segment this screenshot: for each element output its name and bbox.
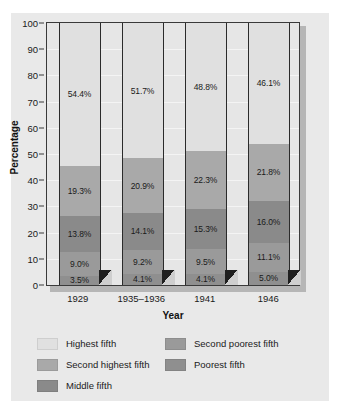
y-tick-label: 30 (27, 201, 38, 212)
y-tick-mark (39, 285, 44, 286)
legend-swatch-icon (165, 338, 186, 350)
bar-segment[interactable]: 9.5% (186, 249, 226, 274)
bar-segment[interactable]: 15.3% (186, 209, 226, 249)
legend-item[interactable]: Highest fifth (37, 338, 165, 350)
y-axis: Percentage 0102030405060708090100 (0, 22, 44, 288)
bar-column: 46.1%21.8%16.0%11.1%5.0% (248, 23, 288, 285)
legend-label: Highest fifth (66, 338, 116, 349)
bar-segment[interactable]: 9.2% (123, 250, 163, 274)
x-axis-tick-labels: 19291935–193619411946 (46, 293, 300, 307)
y-tick-mark (39, 75, 44, 76)
bar-segment[interactable]: 13.8% (60, 216, 100, 252)
y-tick-label: 0 (33, 280, 38, 291)
y-tick-mark (39, 206, 44, 207)
plot-frame: 54.4%19.3%13.8%9.0%3.5%51.7%20.9%14.1%9.… (46, 22, 300, 286)
bar-segment-label: 11.1% (257, 253, 280, 262)
y-tick-label: 80 (27, 70, 38, 81)
x-axis-title: Year (46, 310, 300, 321)
x-tick-label: 1946 (237, 293, 301, 304)
bar-segment-label: 16.0% (257, 218, 281, 227)
bar-segment-label: 4.1% (196, 275, 215, 284)
bar-segment[interactable]: 48.8% (186, 23, 226, 151)
stacked-bar[interactable]: 54.4%19.3%13.8%9.0%3.5% (59, 23, 101, 285)
bar-segment-label: 20.9% (131, 182, 155, 191)
legend-label: Second poorest fifth (194, 338, 279, 349)
y-tick-mark (39, 49, 44, 50)
y-tick-label: 10 (27, 253, 38, 264)
x-tick-label: 1941 (173, 293, 237, 304)
y-tick-label: 70 (27, 96, 38, 107)
bar-segment-label: 4.1% (133, 275, 152, 284)
bar-segment[interactable]: 16.0% (249, 201, 289, 243)
y-tick-mark (39, 23, 44, 24)
bar-segment-label: 54.4% (68, 90, 92, 99)
bar-segment[interactable]: 19.3% (60, 166, 100, 217)
bar-segment[interactable]: 11.1% (249, 243, 289, 272)
bar-segment[interactable]: 54.4% (60, 23, 100, 166)
chart-figure: Percentage 0102030405060708090100 54.4%1… (0, 0, 340, 414)
bar-segment[interactable]: 4.1% (123, 274, 163, 285)
bar-segment[interactable]: 22.3% (186, 151, 226, 209)
bar-segment-label: 22.3% (194, 176, 218, 185)
y-tick-mark (39, 154, 44, 155)
bar-segment-label: 9.0% (70, 260, 89, 269)
legend-swatch-icon (37, 338, 58, 350)
bar-segment[interactable]: 9.0% (60, 252, 100, 276)
stacked-bar[interactable]: 46.1%21.8%16.0%11.1%5.0% (248, 23, 290, 285)
y-tick-label: 100 (22, 18, 38, 29)
bar-segment[interactable]: 5.0% (249, 272, 289, 285)
bar-segment[interactable]: 46.1% (249, 23, 289, 144)
legend-item[interactable]: Poorest fifth (165, 359, 315, 371)
legend-label: Second highest fifth (66, 359, 149, 370)
legend-item[interactable]: Second poorest fifth (165, 338, 315, 350)
bar-segment-label: 21.8% (257, 168, 281, 177)
legend: Highest fifthSecond poorest fifthSecond … (37, 333, 317, 396)
stacked-bar[interactable]: 51.7%20.9%14.1%9.2%4.1% (122, 23, 164, 285)
bar-column: 54.4%19.3%13.8%9.0%3.5% (59, 23, 99, 285)
x-tick-label: 1929 (46, 293, 110, 304)
bar-segment-label: 3.5% (70, 276, 89, 285)
bar-column: 48.8%22.3%15.3%9.5%4.1% (185, 23, 225, 285)
bar-segment[interactable]: 20.9% (123, 158, 163, 213)
bar-segment-label: 19.3% (68, 187, 92, 196)
bar-segment-label: 15.3% (194, 225, 218, 234)
y-tick-mark (39, 101, 44, 102)
plot-area: 54.4%19.3%13.8%9.0%3.5%51.7%20.9%14.1%9.… (46, 22, 302, 288)
stacked-bar[interactable]: 48.8%22.3%15.3%9.5%4.1% (185, 23, 227, 285)
legend-swatch-icon (165, 359, 186, 371)
bar-base-shadow-icon (225, 270, 238, 285)
y-tick-label: 90 (27, 44, 38, 55)
bar-base-shadow-icon (99, 270, 112, 285)
bar-segment-label: 48.8% (194, 83, 218, 92)
y-tick-label: 40 (27, 175, 38, 186)
y-tick-label: 50 (27, 149, 38, 160)
bar-segment[interactable]: 51.7% (123, 23, 163, 158)
bar-segment-label: 5.0% (259, 274, 278, 283)
bar-segment[interactable]: 3.5% (60, 276, 100, 285)
legend-item[interactable]: Second highest fifth (37, 359, 165, 371)
bar-segment[interactable]: 21.8% (249, 144, 289, 201)
bar-segment-label: 9.2% (133, 258, 152, 267)
x-tick-label: 1935–1936 (110, 293, 174, 304)
bar-segment-label: 13.8% (68, 230, 92, 239)
legend-label: Poorest fifth (194, 359, 245, 370)
bar-segment-label: 14.1% (131, 227, 155, 236)
bar-segment[interactable]: 4.1% (186, 274, 226, 285)
bar-base-shadow-icon (162, 270, 175, 285)
legend-swatch-icon (37, 380, 58, 392)
bar-group: 54.4%19.3%13.8%9.0%3.5%51.7%20.9%14.1%9.… (47, 23, 299, 285)
y-axis-title: Percentage (9, 98, 20, 198)
bar-segment-label: 51.7% (131, 87, 155, 96)
y-tick-label: 60 (27, 122, 38, 133)
bar-segment-label: 46.1% (257, 79, 281, 88)
bar-segment[interactable]: 14.1% (123, 213, 163, 250)
y-tick-mark (39, 258, 44, 259)
bar-base-shadow-icon (288, 270, 301, 285)
legend-swatch-icon (37, 359, 58, 371)
bar-column: 51.7%20.9%14.1%9.2%4.1% (122, 23, 162, 285)
y-tick-mark (39, 127, 44, 128)
legend-item[interactable]: Middle fifth (37, 380, 165, 392)
bar-segment-label: 9.5% (196, 258, 215, 267)
y-tick-mark (39, 180, 44, 181)
y-tick-label: 20 (27, 227, 38, 238)
